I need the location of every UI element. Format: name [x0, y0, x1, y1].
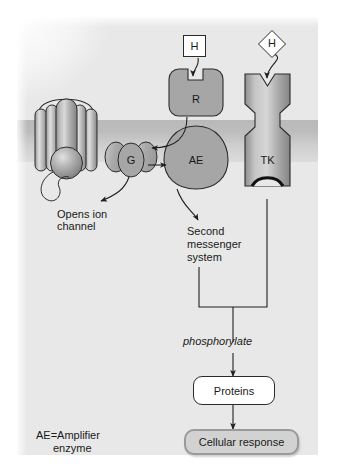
panel-top-fade	[17, 17, 318, 27]
phosphorylate-label: phosphorylate	[183, 335, 252, 348]
figure-panel: H H R AE TK G Opens ion channel Second m…	[17, 17, 318, 455]
ion-channel-complex	[35, 99, 97, 201]
panel-left-fade	[17, 17, 27, 455]
tyrosine-kinase-label: TK	[245, 154, 290, 166]
ion-channel-helix-left-outer	[35, 109, 47, 171]
cellular-response-box-label: Cellular response	[199, 436, 285, 448]
second-messenger-line1: Second	[187, 225, 224, 238]
second-messenger-line3: system	[187, 251, 222, 264]
ion-channel-cytoplasmic-loop	[41, 172, 69, 201]
arrow-g-to-ion-channel	[101, 177, 129, 201]
ion-channel-helix-right-outer	[85, 109, 97, 171]
receptor-r-label: R	[169, 93, 223, 105]
legend-line2: enzyme	[53, 442, 92, 455]
proteins-box: Proteins	[193, 376, 275, 405]
ion-channel-gate-sphere	[51, 147, 83, 179]
tyrosine-kinase-receptor-shape	[245, 74, 290, 186]
second-messenger-line2: messenger	[187, 238, 241, 251]
opens-ion-channel-caption-line2: channel	[57, 220, 96, 233]
ligand-h-square-box: H	[183, 35, 206, 57]
g-protein-label: G	[119, 154, 143, 166]
ligand-h-diamond: H	[257, 29, 287, 59]
ligand-h-diamond-label: H	[257, 37, 287, 49]
ligand-h-square-label: H	[191, 40, 199, 52]
figure-canvas: H H R AE TK G Opens ion channel Second m…	[0, 0, 339, 471]
opens-ion-channel-caption-line1: Opens ion	[57, 208, 107, 221]
proteins-box-label: Proteins	[214, 385, 254, 397]
arrow-h-to-r	[193, 58, 198, 76]
legend-line1: AE=Amplifier	[36, 429, 100, 442]
arrow-ae-to-second-messenger	[177, 189, 198, 220]
amplifier-enzyme-label: AE	[164, 154, 228, 166]
cellular-response-box: Cellular response	[184, 429, 299, 455]
